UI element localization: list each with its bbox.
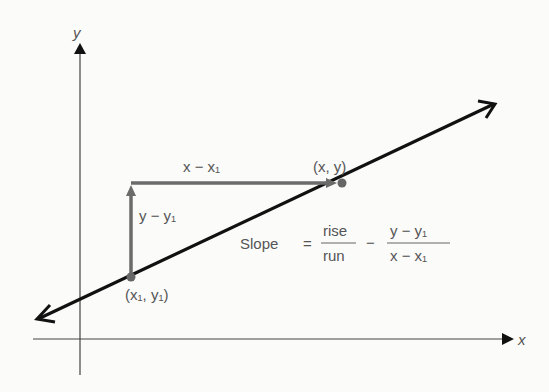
point-x-y bbox=[338, 179, 347, 188]
y-axis-label: y bbox=[72, 24, 82, 41]
y-axis bbox=[74, 43, 86, 375]
run-label: x − x₁ bbox=[183, 158, 220, 175]
rise-label: y − y₁ bbox=[139, 207, 176, 224]
point-x-y-label: (x, y) bbox=[313, 158, 346, 175]
formula-denominator: x − x₁ bbox=[390, 247, 427, 264]
point-x1-y1 bbox=[127, 273, 136, 282]
formula-rise: rise bbox=[323, 222, 347, 239]
x-axis-label: x bbox=[517, 331, 526, 348]
run-segment bbox=[131, 178, 337, 188]
slope-formula: Slope = rise run − y − y₁ x − x₁ bbox=[240, 222, 450, 264]
rise-arrow-icon bbox=[126, 185, 136, 196]
rise-segment bbox=[126, 185, 136, 277]
diagram-svg: y x (x, y) (x₁, y₁) x − x₁ y − y₁ Slope … bbox=[0, 0, 549, 392]
point-x1-y1-label: (x₁, y₁) bbox=[125, 286, 168, 303]
formula-numerator: y − y₁ bbox=[390, 222, 427, 239]
x-axis-arrow-icon bbox=[502, 333, 514, 345]
formula-equals: = bbox=[303, 235, 312, 252]
formula-run: run bbox=[323, 247, 345, 264]
formula-minus: − bbox=[366, 234, 375, 251]
x-axis bbox=[33, 333, 514, 345]
slope-diagram: y x (x, y) (x₁, y₁) x − x₁ y − y₁ Slope … bbox=[0, 0, 549, 392]
y-axis-arrow-icon bbox=[74, 43, 86, 54]
slope-line bbox=[37, 101, 495, 322]
formula-slope-label: Slope bbox=[240, 235, 278, 252]
